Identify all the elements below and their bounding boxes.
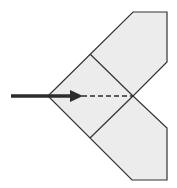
fold-diagram [0, 0, 177, 188]
